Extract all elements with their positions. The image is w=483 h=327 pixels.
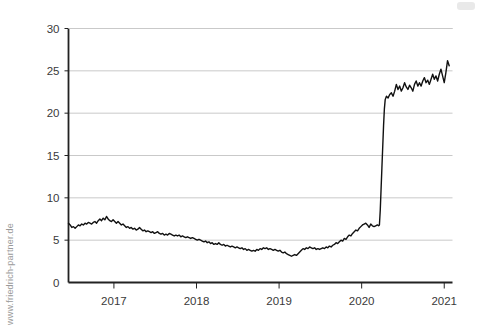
y-axis-label-5: 5 bbox=[53, 234, 59, 246]
grid-lines bbox=[65, 29, 453, 241]
y-axis-label-20: 20 bbox=[47, 107, 60, 119]
y-axis-label-10: 10 bbox=[47, 192, 60, 204]
data-series-layer bbox=[69, 61, 450, 257]
corner-artifact-mark bbox=[457, 2, 475, 10]
line-chart: 051015202530 20172018201920202021 bbox=[0, 0, 483, 327]
x-axis-label-2021: 2021 bbox=[431, 295, 457, 307]
data-line-series-1 bbox=[69, 61, 450, 257]
watermark-text: www.friedrich-partner.de bbox=[2, 309, 142, 325]
y-axis-label-30: 30 bbox=[47, 23, 60, 35]
y-axis-tick-labels: 051015202530 bbox=[47, 23, 60, 289]
x-axis-label-2020: 2020 bbox=[349, 295, 375, 307]
x-axis-label-2019: 2019 bbox=[266, 295, 292, 307]
x-axis-label-2017: 2017 bbox=[101, 295, 127, 307]
chart-container: www.friedrich-partner.de 051015202530 20… bbox=[0, 0, 483, 327]
y-axis-label-25: 25 bbox=[47, 65, 60, 77]
x-axis-label-2018: 2018 bbox=[184, 295, 210, 307]
y-axis-label-15: 15 bbox=[47, 150, 60, 162]
x-axis-tick-labels: 20172018201920202021 bbox=[101, 295, 457, 307]
y-axis-label-0: 0 bbox=[53, 277, 59, 289]
